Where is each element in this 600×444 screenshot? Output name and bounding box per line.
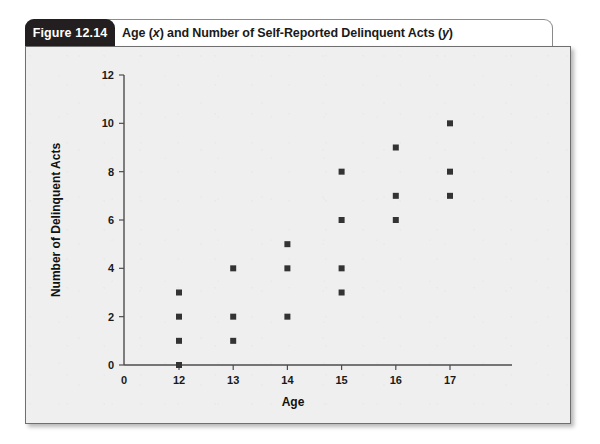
x-tick-label: 13 (227, 374, 239, 386)
figure-container: Figure 12.14 Age (x) and Number of Self-… (0, 0, 600, 444)
data-point-marker (339, 290, 345, 296)
data-point-marker (393, 193, 399, 199)
y-tick-label: 8 (108, 166, 114, 178)
data-point-marker (176, 290, 182, 296)
x-tick-label: 14 (281, 374, 294, 386)
data-point-marker (230, 338, 236, 344)
scatter-plot-svg: 024681012 0121314151617 AgeNumber of Del… (26, 47, 572, 425)
figure-title: Age (x) and Number of Self-Reported Deli… (122, 19, 453, 46)
data-point-marker (339, 265, 345, 271)
figure-number-label: Figure 12.14 (33, 26, 108, 40)
data-point-marker (339, 217, 345, 223)
figure-number-tab: Figure 12.14 (25, 19, 115, 46)
data-point-marker (393, 145, 399, 151)
data-point-marker (176, 314, 182, 320)
data-point-marker (284, 314, 290, 320)
y-tick-label: 0 (108, 359, 114, 371)
data-point-marker (447, 169, 453, 175)
y-axis: 024681012 (102, 69, 124, 371)
figure-title-y-variable: y (442, 26, 449, 40)
x-tick-label: 12 (173, 374, 185, 386)
figure-title-x-variable: x (153, 26, 160, 40)
plot-card: 024681012 0121314151617 AgeNumber of Del… (25, 46, 571, 424)
figure-title-middle: ) and Number of Self-Reported Delinquent… (160, 26, 442, 40)
y-tick-label: 10 (102, 117, 114, 129)
data-points-layer (176, 120, 453, 368)
data-point-marker (393, 217, 399, 223)
data-point-marker (176, 362, 182, 368)
x-tick-label: 15 (335, 374, 347, 386)
data-point-marker (447, 193, 453, 199)
y-tick-label: 12 (102, 69, 114, 81)
data-point-marker (284, 265, 290, 271)
y-axis-title: Number of Delinquent Acts (49, 143, 63, 298)
data-point-marker (284, 241, 290, 247)
x-axis-title: Age (282, 395, 305, 409)
data-point-marker (176, 338, 182, 344)
x-tick-label: 17 (444, 374, 456, 386)
figure-title-suffix: ) (449, 26, 453, 40)
figure-title-prefix: Age ( (122, 26, 153, 40)
scatter-plot: 024681012 0121314151617 AgeNumber of Del… (26, 47, 572, 425)
x-tick-label: 0 (121, 374, 127, 386)
data-point-marker (447, 120, 453, 126)
data-point-marker (339, 169, 345, 175)
x-tick-label: 16 (390, 374, 402, 386)
data-point-marker (230, 314, 236, 320)
data-point-marker (230, 265, 236, 271)
y-tick-label: 4 (108, 262, 115, 274)
x-axis: 0121314151617 (121, 365, 512, 386)
y-tick-label: 6 (108, 214, 114, 226)
axis-titles: AgeNumber of Delinquent Acts (49, 143, 305, 409)
y-tick-label: 2 (108, 311, 114, 323)
